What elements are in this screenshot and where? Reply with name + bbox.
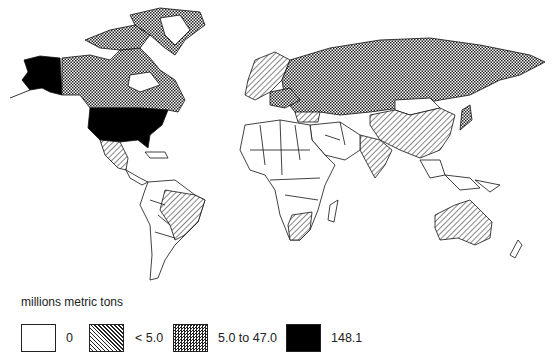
region-canada [62,48,185,112]
legend-swatch-mid [173,324,208,352]
region-alaska [22,56,62,95]
legend-label-mid: 5.0 to 47.0 [218,331,277,345]
region-australia [435,200,492,245]
world-map [0,0,559,290]
legend-swatch-high [286,324,321,352]
region-south-africa [288,212,312,240]
legend-label-zero: 0 [66,331,73,345]
region-mexico [100,140,128,170]
legend-label-low: < 5.0 [135,331,163,345]
legend-label-high: 148.1 [331,331,362,345]
legend-swatch-low [89,324,124,352]
legend-swatch-zero [21,324,56,352]
legend-title: millions metric tons [21,295,123,309]
region-usa [88,108,168,148]
